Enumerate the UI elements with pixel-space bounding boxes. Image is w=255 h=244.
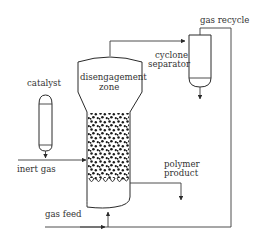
reactor-process-diagram: catalyst inert gas disengagement zone cy… [0, 0, 255, 244]
gas-recycle-label: gas recycle [200, 15, 249, 25]
polymer-product-line [130, 183, 181, 200]
catalyst-vessel [39, 95, 52, 158]
disengagement-zone-label-1: disengagement [80, 72, 147, 82]
polymer-label-2: product [164, 168, 199, 178]
catalyst-label: catalyst [27, 78, 62, 88]
fluidized-bed-particles [88, 113, 129, 180]
gas-feed-label: gas feed [45, 209, 82, 219]
cyclone-separator [189, 35, 211, 99]
inert-gas-label: inert gas [17, 164, 56, 174]
cyclone-label-2: separator [148, 59, 191, 69]
disengagement-zone-label-2: zone [99, 82, 119, 92]
